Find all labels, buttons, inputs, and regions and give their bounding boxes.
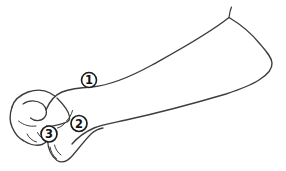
- elbow-nick: [229, 7, 232, 18]
- callout-3-label: 3: [45, 127, 53, 141]
- callout-1: 1: [82, 73, 97, 88]
- arm-and-fist-illustration: 1 2 3: [0, 0, 286, 171]
- figure-canvas: 1 2 3: [0, 0, 286, 171]
- curled-finger-outline: [23, 101, 46, 121]
- heel-hatch-line-2: [55, 145, 62, 155]
- callout-1-label: 1: [85, 73, 93, 87]
- callout-3: 3: [41, 126, 57, 142]
- callout-2-label: 2: [75, 117, 83, 131]
- callout-2: 2: [71, 116, 87, 132]
- curled-finger-crease: [19, 121, 37, 126]
- knuckle-crease-1: [27, 134, 37, 142]
